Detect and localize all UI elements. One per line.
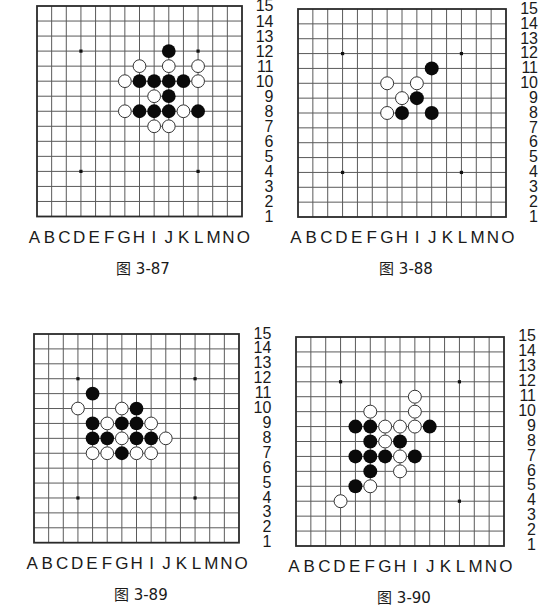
column-label: J (423, 558, 438, 575)
column-label: D (332, 558, 347, 575)
white-stone-icon (101, 417, 114, 430)
row-label: 5 (265, 149, 274, 164)
star-point-icon (77, 377, 80, 380)
row-labels: 151413121110987654321 (247, 327, 271, 551)
column-label: G (117, 229, 132, 246)
black-stone-icon (115, 446, 129, 460)
column-label: M (204, 555, 219, 572)
column-label: H (132, 229, 147, 246)
column-label: E (347, 558, 362, 575)
white-stone-icon (147, 120, 160, 133)
column-label: D (72, 229, 87, 246)
black-stone-icon (348, 419, 362, 433)
column-label: A (287, 558, 302, 575)
white-stone-icon (379, 420, 392, 433)
star-point-icon (77, 496, 80, 499)
column-label: J (425, 229, 440, 246)
black-stone-icon (423, 419, 437, 433)
star-point-icon (196, 50, 199, 53)
white-stone-icon (160, 432, 173, 445)
column-label: F (102, 229, 117, 246)
star-point-icon (79, 170, 82, 173)
row-label: 10 (256, 74, 274, 89)
white-stone-icon (162, 60, 175, 73)
column-label: N (219, 555, 234, 572)
white-stone-icon (130, 447, 143, 460)
row-label: 7 (265, 119, 274, 134)
star-point-icon (341, 171, 344, 174)
black-stone-icon (130, 402, 144, 416)
black-stone-icon (425, 106, 439, 120)
row-labels: 151413121110987654321 (514, 2, 538, 225)
column-label: O (501, 229, 516, 246)
figure-caption: 图 3-87 (116, 257, 170, 278)
white-stone-icon (147, 90, 160, 103)
column-label: F (100, 555, 115, 572)
column-label: C (55, 555, 70, 572)
black-stone-icon (378, 449, 392, 463)
white-stone-icon (116, 432, 129, 445)
white-stone-icon (118, 105, 131, 118)
column-label: O (234, 555, 249, 572)
column-label: B (302, 558, 317, 575)
column-label: M (468, 558, 483, 575)
white-stone-icon (116, 402, 129, 415)
column-label: I (144, 555, 159, 572)
column-label: A (289, 229, 304, 246)
column-label: A (27, 229, 42, 246)
star-point-icon (341, 52, 344, 55)
column-label: D (70, 555, 85, 572)
row-label: 1 (527, 538, 536, 553)
gomoku-board (28, 0, 251, 226)
black-stone-icon (363, 434, 377, 448)
star-point-icon (458, 380, 461, 383)
column-label: C (57, 229, 72, 246)
column-label: M (206, 229, 221, 246)
gomoku-board (25, 325, 248, 552)
column-label: M (470, 229, 485, 246)
column-label: K (174, 555, 189, 572)
column-labels: ABCDEFGHIJKLMNO (27, 229, 251, 246)
row-label: 1 (262, 535, 271, 550)
column-label: I (147, 229, 162, 246)
black-stone-icon (161, 89, 175, 103)
star-point-icon (339, 380, 342, 383)
white-stone-icon (394, 450, 407, 463)
star-point-icon (458, 499, 461, 502)
column-label: H (129, 555, 144, 572)
column-label: K (440, 229, 455, 246)
white-stone-icon (396, 92, 409, 105)
column-labels: ABCDEFGHIJKLMNO (25, 555, 249, 572)
black-stone-icon (132, 74, 146, 88)
column-label: H (393, 558, 408, 575)
white-stone-icon (364, 405, 377, 418)
column-label: J (159, 555, 174, 572)
column-label: B (40, 555, 55, 572)
column-label: N (485, 229, 500, 246)
column-label: H (395, 229, 410, 246)
column-label: I (410, 229, 425, 246)
black-stone-icon (408, 449, 422, 463)
column-label: F (362, 558, 377, 575)
white-stone-icon (118, 75, 131, 88)
row-label: 6 (265, 134, 274, 149)
column-label: F (364, 229, 379, 246)
row-label: 13 (256, 29, 274, 44)
white-stone-icon (334, 494, 347, 507)
white-stone-icon (381, 107, 394, 120)
black-stone-icon (86, 387, 100, 401)
black-stone-icon (393, 434, 407, 448)
black-stone-icon (161, 104, 175, 118)
black-stone-icon (115, 417, 129, 431)
star-point-icon (196, 170, 199, 173)
column-label: D (334, 229, 349, 246)
white-stone-icon (364, 479, 377, 492)
column-label: N (483, 558, 498, 575)
black-stone-icon (176, 74, 190, 88)
white-stone-icon (394, 465, 407, 478)
figure-caption: 图 3-90 (377, 586, 431, 605)
row-label: 1 (265, 209, 274, 224)
black-stone-icon (145, 431, 159, 445)
column-label: J (161, 229, 176, 246)
white-stone-icon (408, 390, 421, 403)
